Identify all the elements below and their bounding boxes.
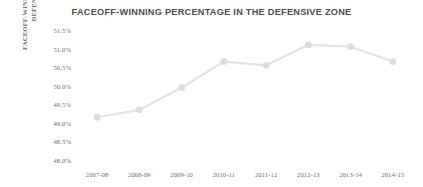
data-point-marker: 2008-09: 49.35% [136, 106, 143, 113]
series-line [97, 45, 393, 117]
y-axis-tick-label: 51.0% [53, 45, 71, 52]
y-axis-tick-label: 49.5% [53, 101, 71, 108]
x-axis-tick-label: 2011-12 [255, 171, 277, 178]
x-axis-tick-label: 2012-13 [297, 171, 320, 178]
data-point-marker: 2012-13: 51.10% [305, 41, 312, 48]
line-series: 2007-08: 49.15%2008-09: 49.35%2009-10: 4… [76, 30, 414, 160]
y-axis-tick-label: 48.5% [53, 138, 71, 145]
y-axis-title: FACEOFF-WINNING PERCENTAGE, DEFENSIVE ZO… [14, 0, 44, 56]
x-axis-tick-label: 2010-11 [213, 171, 235, 178]
y-axis-tick-label: 51.5% [53, 27, 71, 34]
data-point-marker: 2010-11: 50.65% [220, 58, 227, 65]
x-axis-tick-label: 2014-15 [382, 171, 405, 178]
x-axis-tick-label: 2007-08 [86, 171, 109, 178]
x-axis-tick-label: 2009-10 [170, 171, 193, 178]
x-axis-tick-label: 2008-09 [128, 171, 151, 178]
y-axis-title-line-2: DEFENSIVE ZONE [30, 0, 38, 21]
y-axis-tick-label: 50.0% [53, 82, 71, 89]
data-point-marker: 2007-08: 49.15% [94, 114, 101, 121]
y-axis-tick-label: 49.0% [53, 119, 71, 126]
chart-title: FACEOFF-WINNING PERCENTAGE IN THE DEFENS… [0, 7, 423, 17]
data-point-marker: 2014-15: 50.65% [389, 58, 396, 65]
data-point-marker: 2011-12: 50.55% [263, 62, 270, 69]
chart-container: FACEOFF-WINNING PERCENTAGE IN THE DEFENS… [0, 0, 423, 187]
y-axis-tick-label: 50.5% [53, 64, 71, 71]
series-markers: 2007-08: 49.15%2008-09: 49.35%2009-10: 4… [94, 41, 397, 120]
x-axis-tick-label: 2013-14 [339, 171, 362, 178]
y-axis-title-line-1: FACEOFF-WINNING PERCENTAGE, [21, 0, 29, 50]
data-point-marker: 2013-14: 51.05% [347, 43, 354, 50]
y-axis-tick-label: 48.0% [53, 157, 71, 164]
plot-area: 51.5%51.0%50.5%50.0%49.5%49.0%48.5%48.0%… [76, 30, 414, 160]
data-point-marker: 2009-10: 49.95% [178, 84, 185, 91]
